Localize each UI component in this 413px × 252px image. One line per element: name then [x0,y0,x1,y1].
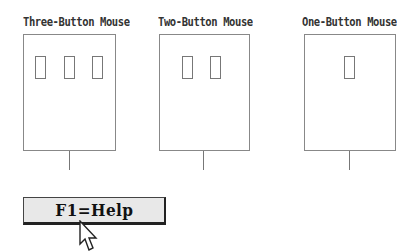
mouse-cord [69,151,70,170]
mouse-button-single [344,56,355,79]
mouse-button-right [210,56,221,79]
mouse-label-two-button: Two-Button Mouse [158,14,253,28]
mouse-cord [203,151,204,170]
mouse-button-middle [64,56,75,79]
mouse-label-three-button: Three-Button Mouse [23,14,130,28]
mouse-body [159,34,250,151]
mouse-button-left [35,56,46,79]
mouse-cord [349,151,350,170]
mouse-body [23,34,116,151]
mouse-body [304,34,396,151]
mouse-label-one-button: One-Button Mouse [302,14,397,28]
mouse-button-left [182,56,193,79]
mouse-pointer-arrow-icon [78,220,100,252]
help-button-label: F1=Help [55,200,133,220]
mouse-button-right [92,56,103,79]
